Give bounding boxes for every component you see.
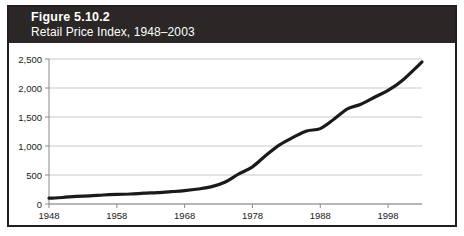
x-axis-tick-label: 1948 (38, 210, 59, 221)
gridlines (49, 59, 422, 204)
y-tick-labels: 05001,0001,5002,0002,500 (18, 54, 42, 210)
y-tick-marks (45, 59, 49, 204)
x-axis-tick-label: 1958 (106, 210, 127, 221)
x-tick-marks (49, 204, 388, 208)
y-axis-tick-label: 2,500 (18, 54, 42, 65)
data-line-retail-price-index (49, 62, 422, 198)
retail-price-index-line-chart: 05001,0001,5002,0002,500 194819581968197… (9, 43, 455, 225)
figure-header: Figure 5.10.2 Retail Price Index, 1948–2… (9, 7, 455, 43)
y-axis-tick-label: 1,500 (18, 112, 42, 123)
series-retail-price-index (49, 62, 422, 198)
x-axis-tick-label: 1978 (242, 210, 263, 221)
x-axis-tick-label: 1998 (378, 210, 399, 221)
figure-subtitle: Retail Price Index, 1948–2003 (31, 25, 455, 40)
figure-container: Figure 5.10.2 Retail Price Index, 1948–2… (0, 0, 464, 236)
y-axis-tick-label: 500 (26, 170, 42, 181)
figure-frame: Figure 5.10.2 Retail Price Index, 1948–2… (7, 5, 457, 227)
chart-plot-area: 05001,0001,5002,0002,500 194819581968197… (9, 43, 455, 225)
y-axis-tick-label: 2,000 (18, 83, 42, 94)
figure-title: Figure 5.10.2 (31, 10, 455, 25)
x-axis-tick-label: 1988 (310, 210, 331, 221)
x-axis-tick-label: 1968 (174, 210, 195, 221)
x-tick-labels: 194819581968197819881998 (38, 210, 398, 221)
y-axis-tick-label: 0 (37, 199, 42, 210)
y-axis-tick-label: 1,000 (18, 141, 42, 152)
